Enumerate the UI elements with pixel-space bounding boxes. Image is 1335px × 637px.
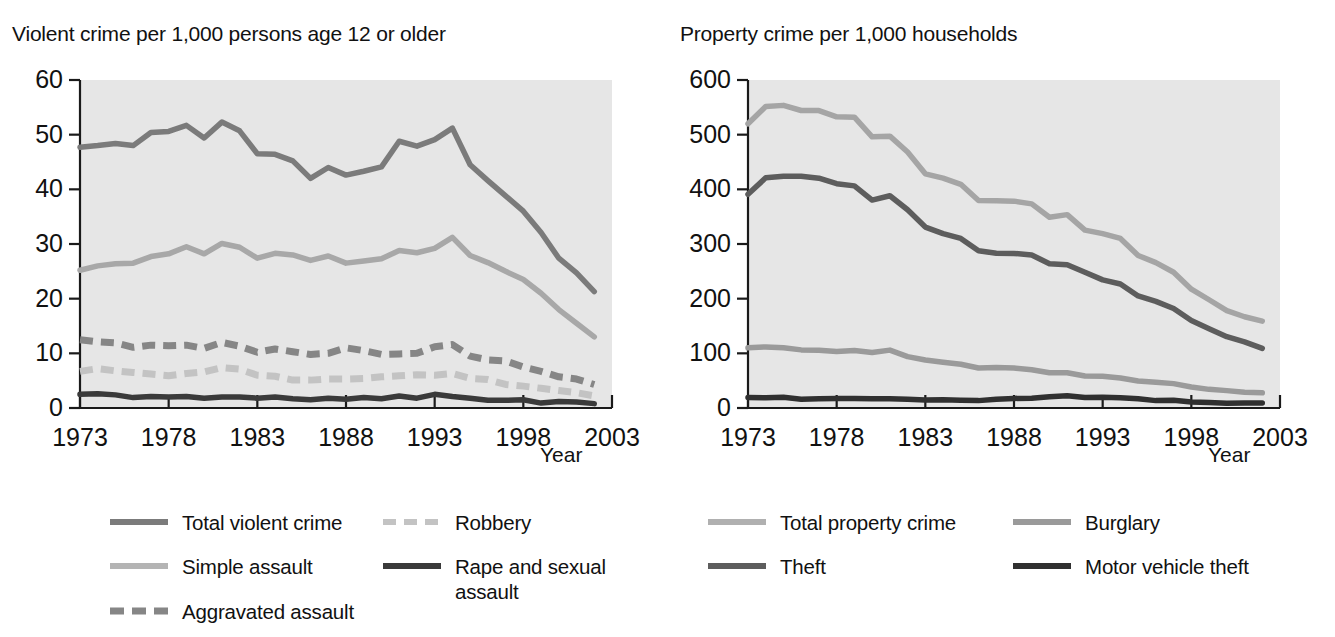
legend-swatch-total-property-crime bbox=[708, 511, 766, 533]
legend-item-rape-and-sexual-assault[interactable]: Rape and sexual assault bbox=[383, 554, 645, 604]
legend-swatch-simple-assault bbox=[110, 555, 168, 577]
legend-item-total-property-crime[interactable]: Total property crime bbox=[708, 510, 956, 535]
legend-violent-crime: Total violent crime Robbery Simple assau… bbox=[0, 494, 667, 637]
y-tick-label: 300 bbox=[689, 229, 731, 257]
legend-swatch-rape-and-sexual-assault bbox=[383, 555, 441, 577]
y-tick-label: 40 bbox=[35, 174, 63, 202]
y-tick-label: 0 bbox=[717, 393, 731, 421]
y-tick-label: 30 bbox=[35, 229, 63, 257]
legend-item-burglary[interactable]: Burglary bbox=[1013, 510, 1160, 535]
legend-label-robbery: Robbery bbox=[455, 510, 531, 535]
legend-swatch-aggravated-assault bbox=[110, 600, 168, 622]
legend-label-burglary: Burglary bbox=[1085, 510, 1160, 535]
legend-label-theft: Theft bbox=[780, 554, 826, 579]
y-tick-label: 50 bbox=[35, 120, 63, 148]
legend-swatch-total-violent-crime bbox=[110, 511, 168, 533]
x-tick-label: 1983 bbox=[230, 423, 286, 451]
legend-item-total-violent-crime[interactable]: Total violent crime bbox=[110, 510, 342, 535]
legend-swatch-theft bbox=[708, 555, 766, 577]
y-tick-label: 500 bbox=[689, 120, 731, 148]
x-tick-label: 2003 bbox=[584, 423, 640, 451]
legend-item-simple-assault[interactable]: Simple assault bbox=[110, 554, 313, 579]
y-tick-label: 0 bbox=[49, 393, 63, 421]
x-tick-label: 1988 bbox=[986, 423, 1042, 451]
legend-property-crime: Total property crime Burglary Theft Moto… bbox=[668, 494, 1335, 637]
figure-root: Violent crime per 1,000 persons age 12 o… bbox=[0, 0, 1335, 637]
x-tick-label: 1983 bbox=[898, 423, 954, 451]
legend-item-robbery[interactable]: Robbery bbox=[383, 510, 531, 535]
y-tick-label: 100 bbox=[689, 338, 731, 366]
legend-item-aggravated-assault[interactable]: Aggravated assault bbox=[110, 599, 354, 624]
legend-label-rape-and-sexual-assault: Rape and sexual assault bbox=[455, 554, 645, 604]
x-tick-label: 1978 bbox=[809, 423, 865, 451]
legend-label-total-violent-crime: Total violent crime bbox=[182, 510, 342, 535]
x-tick-label: 2003 bbox=[1252, 423, 1308, 451]
legend-item-motor-vehicle-theft[interactable]: Motor vehicle theft bbox=[1013, 554, 1249, 579]
plot-area-violent-crime: 0102030405060197319781983198819931998200… bbox=[0, 0, 667, 470]
legend-label-aggravated-assault: Aggravated assault bbox=[182, 599, 354, 624]
legend-label-motor-vehicle-theft: Motor vehicle theft bbox=[1085, 554, 1249, 579]
x-tick-label: 1993 bbox=[407, 423, 463, 451]
y-tick-label: 60 bbox=[35, 65, 63, 93]
x-tick-label: 1978 bbox=[141, 423, 197, 451]
chart-panel-violent-crime: Violent crime per 1,000 persons age 12 o… bbox=[0, 0, 667, 637]
x-tick-label: 1973 bbox=[720, 423, 776, 451]
legend-label-simple-assault: Simple assault bbox=[182, 554, 313, 579]
y-tick-label: 400 bbox=[689, 174, 731, 202]
x-axis-label-violent-crime: Year bbox=[540, 443, 582, 467]
legend-swatch-robbery bbox=[383, 511, 441, 533]
legend-swatch-burglary bbox=[1013, 511, 1071, 533]
x-tick-label: 1988 bbox=[318, 423, 374, 451]
plot-background bbox=[748, 80, 1280, 408]
legend-item-theft[interactable]: Theft bbox=[708, 554, 826, 579]
x-axis-label-property-crime: Year bbox=[1208, 443, 1250, 467]
y-tick-label: 600 bbox=[689, 65, 731, 93]
x-tick-label: 1993 bbox=[1075, 423, 1131, 451]
plot-svg-property-crime: 0100200300400500600197319781983198819931… bbox=[668, 0, 1335, 470]
plot-area-property-crime: 0100200300400500600197319781983198819931… bbox=[668, 0, 1335, 470]
y-tick-label: 10 bbox=[35, 338, 63, 366]
plot-svg-violent-crime: 0102030405060197319781983198819931998200… bbox=[0, 0, 667, 470]
y-tick-label: 20 bbox=[35, 284, 63, 312]
chart-panel-property-crime: Property crime per 1,000 households 0100… bbox=[668, 0, 1335, 637]
legend-swatch-motor-vehicle-theft bbox=[1013, 555, 1071, 577]
x-tick-label: 1973 bbox=[52, 423, 108, 451]
legend-label-total-property-crime: Total property crime bbox=[780, 510, 956, 535]
y-tick-label: 200 bbox=[689, 284, 731, 312]
